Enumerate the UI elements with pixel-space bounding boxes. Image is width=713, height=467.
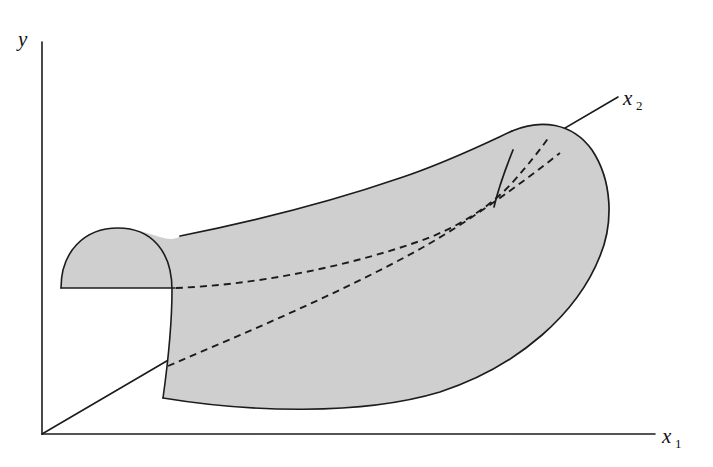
surface-plot-figure: y x 1 x 2	[0, 0, 713, 467]
surface-fill-region	[61, 124, 609, 409]
figure-container: y x 1 x 2	[0, 0, 713, 467]
x1-axis-label-group: x	[661, 424, 672, 448]
x1-axis-label-subscript: 1	[675, 436, 682, 451]
y-axis-label: y	[16, 27, 28, 51]
surface-group	[61, 124, 609, 409]
x2-axis-label-subscript: 2	[636, 98, 643, 113]
x1-axis-label: x	[661, 424, 672, 448]
x2-axis-label: x	[622, 86, 633, 110]
